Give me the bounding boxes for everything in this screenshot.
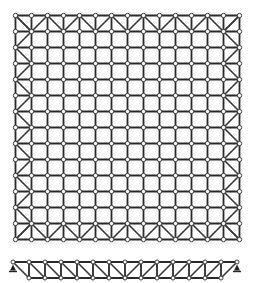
grid-node bbox=[109, 93, 113, 97]
grid-node bbox=[221, 77, 225, 81]
grid-node bbox=[125, 93, 129, 97]
grid-node bbox=[61, 61, 65, 65]
grid-node bbox=[221, 45, 225, 49]
perimeter-diagonal bbox=[96, 224, 112, 240]
grid-node bbox=[125, 77, 129, 81]
grid-node bbox=[189, 125, 193, 129]
web-diagonal bbox=[93, 262, 109, 278]
top-node bbox=[187, 260, 191, 264]
grid-node bbox=[61, 189, 65, 193]
grid-node bbox=[109, 61, 113, 65]
grid-node bbox=[221, 237, 225, 241]
perimeter-diagonal bbox=[16, 64, 32, 80]
grid-node bbox=[109, 173, 113, 177]
grid-node bbox=[157, 13, 161, 17]
grid-node bbox=[109, 77, 113, 81]
grid-node bbox=[189, 221, 193, 225]
grid-node bbox=[29, 141, 33, 145]
grid-node bbox=[157, 173, 161, 177]
web-diagonal bbox=[205, 262, 221, 278]
grid-node bbox=[141, 13, 145, 17]
perimeter-diagonal bbox=[176, 224, 192, 240]
grid-node bbox=[13, 77, 17, 81]
grid-node bbox=[125, 173, 129, 177]
grid-node bbox=[205, 93, 209, 97]
grid-node bbox=[45, 45, 49, 49]
grid-node bbox=[189, 45, 193, 49]
grid-node bbox=[157, 189, 161, 193]
perimeter-diagonal bbox=[160, 16, 176, 32]
grid-node bbox=[157, 125, 161, 129]
grid-node bbox=[77, 125, 81, 129]
grid-node bbox=[77, 173, 81, 177]
grid-node bbox=[61, 45, 65, 49]
perimeter-diagonal bbox=[208, 16, 224, 32]
grid-node bbox=[205, 141, 209, 145]
grid-node bbox=[77, 141, 81, 145]
grid-node bbox=[29, 13, 33, 17]
grid-node bbox=[45, 13, 49, 17]
grid-node bbox=[93, 77, 97, 81]
grid-node bbox=[157, 61, 161, 65]
perimeter-diagonal bbox=[176, 16, 192, 32]
top-node bbox=[155, 260, 159, 264]
grid-node bbox=[173, 221, 177, 225]
grid-node bbox=[13, 205, 17, 209]
perimeter-diagonal bbox=[96, 16, 112, 32]
grid-node bbox=[205, 221, 209, 225]
perimeter-diagonal bbox=[16, 144, 32, 160]
grid-node bbox=[125, 45, 129, 49]
grid-node bbox=[93, 189, 97, 193]
grid-node bbox=[173, 29, 177, 33]
perimeter-diagonal bbox=[224, 32, 240, 48]
grid-node bbox=[109, 237, 113, 241]
right-support-icon bbox=[234, 265, 240, 271]
grid-node bbox=[93, 61, 97, 65]
grid-node bbox=[93, 45, 97, 49]
grid-node bbox=[45, 221, 49, 225]
grid-node bbox=[237, 13, 241, 17]
perimeter-diagonal bbox=[224, 176, 240, 192]
grid-node bbox=[237, 109, 241, 113]
grid-node bbox=[157, 157, 161, 161]
grid-node bbox=[77, 61, 81, 65]
grid-node bbox=[13, 141, 17, 145]
grid-node bbox=[93, 221, 97, 225]
grid-node bbox=[237, 205, 241, 209]
grid-node bbox=[109, 189, 113, 193]
grid-node bbox=[77, 13, 81, 17]
grid-node bbox=[173, 77, 177, 81]
grid-node bbox=[109, 205, 113, 209]
grid-node bbox=[109, 221, 113, 225]
grid-node bbox=[125, 141, 129, 145]
grid-node bbox=[61, 173, 65, 177]
grid-node bbox=[189, 93, 193, 97]
grid-node bbox=[237, 45, 241, 49]
grid-node bbox=[141, 61, 145, 65]
web-diagonal bbox=[173, 262, 189, 278]
grid-node bbox=[109, 45, 113, 49]
perimeter-diagonal bbox=[144, 16, 160, 32]
grid-node bbox=[221, 29, 225, 33]
grid-node bbox=[157, 93, 161, 97]
bottom-node bbox=[139, 276, 143, 280]
grid-node bbox=[157, 205, 161, 209]
grid-node bbox=[29, 237, 33, 241]
perimeter-diagonal bbox=[160, 224, 176, 240]
grid-node bbox=[237, 157, 241, 161]
bottom-node bbox=[203, 276, 207, 280]
perimeter-diagonal bbox=[128, 224, 144, 240]
perimeter-diagonal bbox=[224, 48, 240, 64]
grid-node bbox=[141, 221, 145, 225]
perimeter-diagonal bbox=[224, 144, 240, 160]
grid-node bbox=[77, 45, 81, 49]
grid-node bbox=[157, 45, 161, 49]
grid-node bbox=[141, 205, 145, 209]
grid-node bbox=[93, 141, 97, 145]
grid-node bbox=[93, 205, 97, 209]
grid-node bbox=[189, 29, 193, 33]
perimeter-diagonal bbox=[16, 128, 32, 144]
grid-node bbox=[125, 221, 129, 225]
grid-node bbox=[93, 109, 97, 113]
grid-node bbox=[45, 77, 49, 81]
